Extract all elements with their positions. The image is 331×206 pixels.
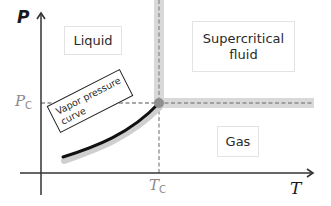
critical-temperature-subscript: C (159, 184, 166, 195)
gas-region-label: Gas (217, 126, 259, 157)
supercritical-text-line2: fluid (229, 47, 257, 63)
critical-pressure-subscript: C (25, 100, 32, 111)
liquid-region-label: Liquid (64, 26, 122, 55)
supercritical-text-line1: Supercritical (203, 31, 284, 47)
critical-point-marker (154, 98, 164, 108)
critical-temperature-label: TC (149, 178, 166, 195)
temperature-axis-label: T (290, 180, 301, 197)
critical-pressure-label: PC (15, 94, 32, 111)
critical-pressure-symbol: P (15, 92, 25, 110)
phase-diagram: P T PC TC Liquid Supercritical fluid Gas… (0, 0, 331, 206)
supercritical-region-label: Supercritical fluid (192, 21, 295, 72)
pressure-axis-label: P (17, 9, 29, 26)
gas-text: Gas (226, 134, 251, 150)
critical-temperature-symbol: T (149, 176, 159, 194)
liquid-text: Liquid (73, 33, 112, 49)
